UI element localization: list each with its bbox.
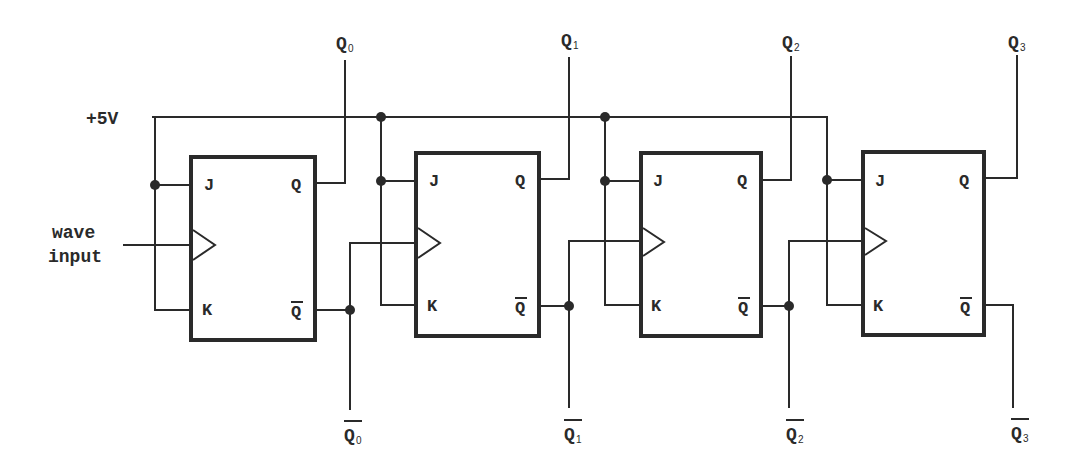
jk-tie-wire-2 [605,117,641,305]
pin-k: K [427,297,438,316]
junction-dot [150,180,160,190]
output-q3-subscript: 3 [1020,42,1026,53]
flip-flop-3: J K Q Q Q 3 Q 3 [822,33,1029,444]
pin-qbar: Q [515,299,525,318]
flip-flop-0: J K Q Q Q 0 Q 0 [150,34,416,446]
pin-j: J [204,176,214,195]
output-q0bar-label: Q [344,426,355,446]
junction-dot [600,176,610,186]
output-q2-label: Q [782,33,793,53]
pin-q: Q [515,172,525,191]
output-q3bar-subscript: 3 [1023,433,1029,444]
output-q3-label: Q [1008,33,1019,53]
output-q1bar-label: Q [564,425,575,445]
pin-j: J [429,172,439,191]
pin-j: J [653,172,663,191]
pin-qbar: Q [738,299,748,318]
output-q1-subscript: 1 [573,40,579,51]
jk-tie-wire-0 [155,117,191,310]
junction-dot [376,112,386,122]
pin-j: J [875,172,885,191]
input-label-line2: input [48,247,102,267]
jk-tie-wire-1 [381,117,416,305]
output-q2bar-subscript: 2 [798,434,804,445]
junction-dot [600,112,610,122]
output-q3bar-label: Q [1011,424,1022,444]
output-q0bar-subscript: 0 [356,435,362,446]
pin-k: K [873,297,884,316]
junction-dot [784,301,794,311]
qbar-output-wire-3 [984,305,1013,408]
q-output-wire-0 [315,60,345,183]
input-label-line1: wave [52,223,95,243]
pin-q: Q [291,176,301,195]
flip-flop-1: J K Q Q Q 1 Q 1 [376,31,641,445]
junction-dot [376,176,386,186]
output-q1bar-subscript: 1 [576,434,582,445]
output-q2-subscript: 2 [794,42,800,53]
output-q2bar-label: Q [786,425,797,445]
junction-dot [345,305,355,315]
junction-dot [822,175,832,185]
output-q0-subscript: 0 [348,43,354,54]
ripple-counter-diagram: +5V wave input J K Q Q Q 0 Q 0 J K Q [0,0,1081,472]
supply-label: +5V [86,109,119,129]
pin-k: K [202,301,213,320]
pin-q: Q [737,172,747,191]
pin-k: K [651,297,662,316]
output-q1-label: Q [561,31,572,51]
output-q0-label: Q [336,34,347,54]
pin-q: Q [959,172,969,191]
qbar-to-clock-wire-0 [350,243,416,410]
pin-qbar: Q [960,299,970,318]
flip-flop-2: J K Q Q Q 2 Q 2 [600,33,863,445]
pin-qbar: Q [291,303,301,322]
q-output-wire-3 [984,55,1017,178]
junction-dot [564,301,574,311]
